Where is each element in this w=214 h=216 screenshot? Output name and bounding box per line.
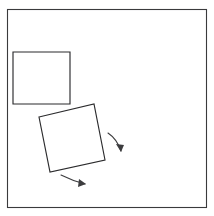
diagram-canvas [0, 0, 214, 216]
rotation-arrow-right-head [116, 144, 124, 152]
square-upright [13, 52, 70, 104]
rotation-arrow-bottom [61, 175, 86, 187]
outer-frame-border [8, 10, 207, 208]
rotation-arrow-right [108, 133, 124, 152]
square-rotated [39, 104, 105, 172]
rotation-arrow-bottom-head [78, 179, 86, 187]
rotation-diagram [0, 0, 214, 216]
